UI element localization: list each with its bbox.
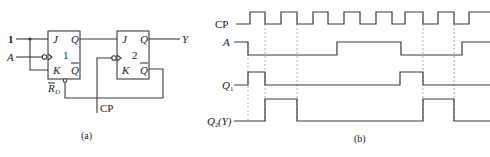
cp-waveform: [236, 12, 490, 24]
circuit-diagram: 1 A J K Q Q 1 J K Q Q 2 Y CP R D (a): [6, 31, 190, 142]
ff2-k-label: K: [121, 64, 130, 76]
ff1-number: 1: [63, 49, 69, 61]
reset-label: R: [47, 82, 55, 94]
q2-signal-label: Q: [207, 115, 215, 127]
timing-diagram: CP A Q 1 Q 2 (Y) (b): [207, 12, 490, 145]
ff1-qbar-label: Q: [71, 64, 79, 76]
q1-signal-sub: 1: [230, 85, 234, 93]
clock-inverter-bubble-1: [42, 55, 47, 60]
reset-sub-label: D: [54, 88, 60, 96]
a-signal-label: A: [222, 36, 230, 48]
cp-signal-label: CP: [215, 18, 228, 30]
reset-bubble: [63, 79, 67, 83]
clock-inverter-bubble-2: [112, 56, 117, 61]
caption-b: (b): [354, 133, 366, 145]
ff1-q-label: Q: [71, 33, 79, 45]
input-a-label: A: [6, 51, 14, 63]
ff2-qbar-label: Q: [140, 64, 148, 76]
q2-signal-suffix: (Y): [218, 115, 232, 128]
ff1-k-label: K: [52, 64, 61, 76]
q1-signal-label: Q: [222, 79, 230, 91]
input-one-label: 1: [8, 33, 14, 45]
a-waveform: [234, 42, 490, 55]
figure: 1 A J K Q Q 1 J K Q Q 2 Y CP R D (a): [0, 0, 490, 157]
ff2-number: 2: [132, 49, 138, 61]
q2-waveform: [234, 99, 490, 121]
caption-a: (a): [81, 130, 92, 142]
output-y-label: Y: [182, 33, 190, 45]
ff2-q-label: Q: [140, 33, 148, 45]
clock-label: CP: [100, 102, 113, 114]
q1-waveform: [234, 72, 490, 85]
